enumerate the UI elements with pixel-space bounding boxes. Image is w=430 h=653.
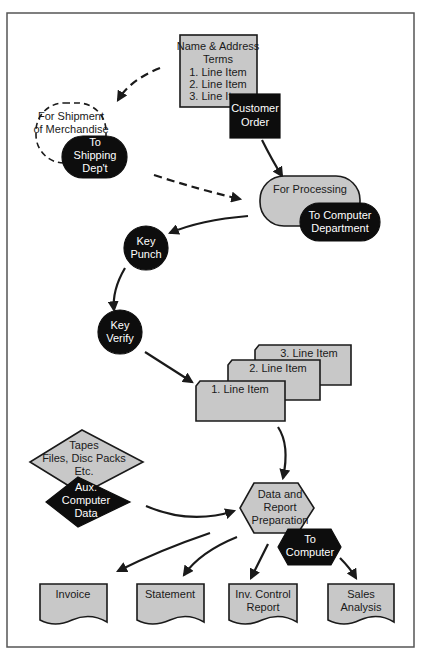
card-1-label: 1. Line Item: [211, 383, 268, 395]
inv-control-line-0: Inv. Control: [235, 588, 290, 600]
arrow-order-to-shipment: [118, 68, 160, 100]
inv-control-line-1: Report: [246, 601, 279, 613]
aux-storage-line-2: Etc.: [75, 465, 94, 477]
key-punch-line-0: Key: [137, 235, 156, 247]
arrow-shipping-to-processing: [154, 175, 240, 199]
arrow-aux-to-dataprep: [146, 506, 234, 517]
customer-order-label: Customer Order: [230, 94, 280, 138]
to-computer-line-0: To: [304, 533, 316, 545]
data-prep-line-2: Preparation: [252, 514, 309, 526]
aux-data-line-1: Computer: [62, 494, 111, 506]
arrow-order-to-processing: [262, 140, 282, 176]
aux-data-line-2: Data: [74, 507, 98, 519]
key-verify-line-1: Verify: [106, 332, 134, 344]
shipping-line-2: Dep't: [82, 162, 107, 174]
arrow-to-invoice: [118, 533, 210, 571]
shipping-line-1: Shipping: [74, 149, 117, 161]
aux-storage-line-0: Tapes: [69, 439, 99, 451]
arrow-keypunch-to-keyverify: [114, 268, 125, 310]
data-prep-line-1: Report: [263, 501, 296, 513]
shipment-line-0: For Shipment: [38, 110, 104, 122]
output-statement: Statement: [137, 584, 204, 624]
card-3-label: 3. Line Item: [280, 347, 337, 359]
order-processing-flowchart: Name & Address Terms 1. Line Item 2. Lin…: [0, 0, 430, 653]
arrow-keyverify-to-cards: [145, 352, 192, 382]
arrow-processing-to-keypunch: [170, 216, 248, 233]
statement-label: Statement: [145, 588, 195, 600]
customer-order-line-1: Order: [241, 116, 269, 128]
to-computer-line-1: Computer: [286, 546, 335, 558]
data-prep-hexagon: Data and Report Preparation: [240, 483, 314, 533]
customer-order-line-0: Customer: [231, 102, 279, 114]
arrow-to-sales-analysis: [340, 558, 356, 578]
doc-line-3: 2. Line Item: [189, 78, 246, 90]
output-sales-analysis: Sales Analysis: [328, 584, 394, 624]
shipment-line-1: of Merchandise: [33, 123, 108, 135]
data-prep-line-0: Data and: [258, 488, 303, 500]
key-verify-circle: Key Verify: [98, 310, 142, 354]
to-computer-hexagon: To Computer: [278, 529, 341, 565]
aux-data-line-0: Aux.: [75, 481, 97, 493]
shipping-line-0: To: [89, 136, 101, 148]
arrow-to-statement: [184, 537, 237, 575]
punched-card-1: 1. Line Item: [196, 381, 285, 421]
computer-dept-line-1: Department: [311, 222, 368, 234]
key-punch-line-1: Punch: [130, 248, 161, 260]
aux-data-diamond: Aux. Computer Data: [46, 477, 130, 527]
processing-label: For Processing: [273, 183, 347, 195]
doc-line-2: 1. Line Item: [189, 66, 246, 78]
card-2-label: 2. Line Item: [249, 362, 306, 374]
key-punch-circle: Key Punch: [124, 226, 168, 270]
output-inv-control-report: Inv. Control Report: [229, 584, 297, 624]
key-verify-line-0: Key: [111, 319, 130, 331]
doc-line-0: Name & Address: [177, 40, 260, 52]
invoice-label: Invoice: [56, 588, 91, 600]
shipping-dept-terminal: To Shipping Dep't: [62, 136, 127, 178]
sales-analysis-line-0: Sales: [347, 588, 375, 600]
aux-storage-line-1: Files, Disc Packs: [42, 452, 126, 464]
sales-analysis-line-1: Analysis: [341, 601, 382, 613]
computer-dept-terminal: To Computer Department: [300, 203, 380, 241]
arrow-cards-to-dataprep: [278, 427, 286, 478]
doc-line-1: Terms: [203, 53, 233, 65]
arrow-to-inv-control: [251, 544, 268, 578]
output-invoice: Invoice: [40, 584, 107, 624]
computer-dept-line-0: To Computer: [309, 209, 372, 221]
